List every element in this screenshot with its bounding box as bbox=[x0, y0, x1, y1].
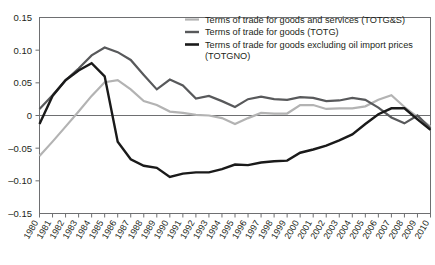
y-tick-label: 0.10 bbox=[14, 45, 33, 56]
chart-legend: Terms of trade for goods and services (T… bbox=[185, 15, 413, 61]
y-tick-label: –0.15 bbox=[8, 208, 32, 219]
terms-of-trade-line-chart: 0.150.100.050–0.05–0.10–0.15 19801981198… bbox=[0, 0, 435, 265]
legend-label-continuation: (TOTGNO) bbox=[205, 51, 250, 61]
y-tick-label: 0.15 bbox=[14, 12, 33, 23]
y-tick-label: –0.05 bbox=[8, 143, 32, 154]
x-axis: 1980198119821983198419851986198719881989… bbox=[22, 214, 432, 241]
series-line-totgno bbox=[40, 63, 431, 177]
y-tick-label: 0 bbox=[27, 110, 32, 121]
chart-canvas: 0.150.100.050–0.05–0.10–0.15 19801981198… bbox=[0, 0, 435, 265]
y-axis: 0.150.100.050–0.05–0.10–0.15 bbox=[8, 12, 39, 219]
x-tick-label: 2010 bbox=[413, 219, 432, 241]
legend-label: Terms of trade for goods excluding oil i… bbox=[205, 40, 413, 50]
y-tick-label: 0.05 bbox=[14, 77, 33, 88]
y-tick-label: –0.10 bbox=[8, 175, 32, 186]
data-series-group bbox=[40, 48, 431, 177]
legend-label: Terms of trade for goods (TOTG) bbox=[205, 27, 339, 37]
legend-label: Terms of trade for goods and services (T… bbox=[205, 15, 405, 25]
